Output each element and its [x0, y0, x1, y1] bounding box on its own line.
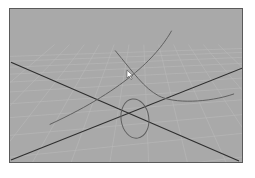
axis-line-z — [11, 68, 242, 160]
world-axes — [11, 62, 242, 161]
ground-grid — [10, 45, 242, 162]
viewport-canvas[interactable] — [10, 9, 242, 162]
perspective-viewport[interactable] — [9, 8, 243, 163]
nurbs-curve-long[interactable] — [50, 31, 172, 125]
